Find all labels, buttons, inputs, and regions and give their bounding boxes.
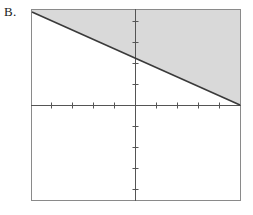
coordinate-graph xyxy=(31,9,241,201)
figure-container: B. xyxy=(0,0,253,215)
problem-label: B. xyxy=(4,5,17,18)
graph-svg xyxy=(31,9,241,201)
